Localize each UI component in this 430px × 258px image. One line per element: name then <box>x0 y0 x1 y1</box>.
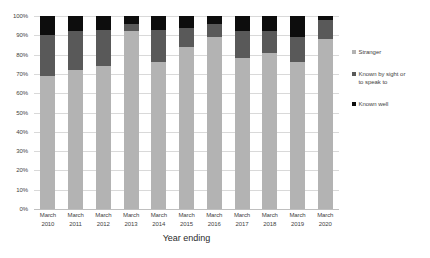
bar-march-2019[interactable] <box>290 16 305 209</box>
legend-item-stranger[interactable]: Stranger <box>352 48 430 56</box>
bar-segment-known-by-sight-or-to-speak-to[interactable] <box>207 24 222 38</box>
bar-segment-known-well[interactable] <box>207 16 222 24</box>
bars-layer <box>34 16 339 209</box>
bar-segment-known-well[interactable] <box>179 16 194 28</box>
bar-segment-stranger[interactable] <box>124 31 139 209</box>
x-tick-label: March2019 <box>284 211 312 233</box>
y-tick-label: 60% <box>16 90 28 96</box>
x-tick-label: March2018 <box>256 211 284 233</box>
bar-segment-known-well[interactable] <box>290 16 305 37</box>
x-axis: March2010March2011March2012March2013Marc… <box>34 211 339 233</box>
bar-slot <box>284 16 312 209</box>
bar-segment-stranger[interactable] <box>290 62 305 209</box>
y-tick-label: 20% <box>16 167 28 173</box>
x-tick-line: 2020 <box>311 220 339 229</box>
legend-label: Known by sight orto speak to <box>359 70 406 86</box>
x-tick-line: March <box>145 211 173 220</box>
bar-segment-known-well[interactable] <box>68 16 83 31</box>
bar-segment-known-well[interactable] <box>40 16 55 35</box>
legend-label-line: Stranger <box>359 48 382 56</box>
bar-segment-known-well[interactable] <box>96 16 111 30</box>
legend-item-known-by-sight-or-to-speak-to[interactable]: Known by sight orto speak to <box>352 70 430 86</box>
x-tick-label: March2020 <box>311 211 339 233</box>
y-tick-label: 30% <box>16 148 28 154</box>
bar-march-2016[interactable] <box>207 16 222 209</box>
bar-segment-stranger[interactable] <box>96 66 111 209</box>
x-tick-line: 2011 <box>62 220 90 229</box>
x-tick-line: 2018 <box>256 220 284 229</box>
bar-segment-known-by-sight-or-to-speak-to[interactable] <box>262 31 277 52</box>
bar-slot <box>89 16 117 209</box>
bar-segment-known-by-sight-or-to-speak-to[interactable] <box>96 30 111 67</box>
bar-march-2018[interactable] <box>262 16 277 209</box>
x-tick-label: March2011 <box>62 211 90 233</box>
bar-segment-known-by-sight-or-to-speak-to[interactable] <box>179 28 194 47</box>
y-tick-label: 10% <box>16 187 28 193</box>
y-tick-label: 90% <box>16 32 28 38</box>
x-axis-title: Year ending <box>34 233 339 243</box>
bar-segment-known-by-sight-or-to-speak-to[interactable] <box>151 30 166 63</box>
legend-swatch-icon <box>352 50 356 54</box>
bar-segment-known-by-sight-or-to-speak-to[interactable] <box>318 20 333 39</box>
bar-segment-known-by-sight-or-to-speak-to[interactable] <box>235 31 250 58</box>
bar-segment-known-by-sight-or-to-speak-to[interactable] <box>124 24 139 32</box>
bar-segment-stranger[interactable] <box>207 37 222 209</box>
bar-slot <box>200 16 228 209</box>
x-tick-line: March <box>200 211 228 220</box>
bar-march-2017[interactable] <box>235 16 250 209</box>
x-tick-line: 2019 <box>284 220 312 229</box>
bar-segment-known-well[interactable] <box>151 16 166 30</box>
bar-slot <box>145 16 173 209</box>
legend-label-line: Known by sight or <box>359 70 406 78</box>
y-tick-label: 50% <box>16 110 28 116</box>
y-tick-label: 70% <box>16 71 28 77</box>
y-tick-label: 80% <box>16 52 28 58</box>
bar-slot <box>173 16 201 209</box>
bar-segment-stranger[interactable] <box>318 39 333 209</box>
x-tick-line: 2010 <box>34 220 62 229</box>
legend-label: Stranger <box>359 48 382 56</box>
x-tick-line: March <box>256 211 284 220</box>
bar-segment-stranger[interactable] <box>179 47 194 209</box>
bar-segment-stranger[interactable] <box>68 70 83 209</box>
bar-march-2013[interactable] <box>124 16 139 209</box>
legend-label-line: Known well <box>359 100 389 108</box>
x-tick-line: 2017 <box>228 220 256 229</box>
bar-segment-known-well[interactable] <box>235 16 250 31</box>
x-tick-line: March <box>89 211 117 220</box>
bar-march-2014[interactable] <box>151 16 166 209</box>
bar-segment-known-by-sight-or-to-speak-to[interactable] <box>68 31 83 70</box>
x-tick-label: March2016 <box>200 211 228 233</box>
bar-march-2020[interactable] <box>318 16 333 209</box>
bar-segment-stranger[interactable] <box>262 53 277 209</box>
bar-march-2015[interactable] <box>179 16 194 209</box>
bar-segment-stranger[interactable] <box>40 76 55 209</box>
bar-march-2010[interactable] <box>40 16 55 209</box>
bar-segment-stranger[interactable] <box>235 58 250 209</box>
x-tick-line: March <box>62 211 90 220</box>
bar-march-2011[interactable] <box>68 16 83 209</box>
x-tick-label: March2017 <box>228 211 256 233</box>
bar-slot <box>311 16 339 209</box>
x-tick-label: March2013 <box>117 211 145 233</box>
x-tick-line: March <box>228 211 256 220</box>
x-tick-line: 2013 <box>117 220 145 229</box>
legend-label-line: to speak to <box>359 78 406 86</box>
plot-area <box>34 16 339 209</box>
bar-segment-known-well[interactable] <box>124 16 139 24</box>
bar-segment-known-by-sight-or-to-speak-to[interactable] <box>290 37 305 62</box>
bar-slot <box>34 16 62 209</box>
bar-slot <box>62 16 90 209</box>
y-tick-label: 40% <box>16 129 28 135</box>
bar-segment-known-well[interactable] <box>262 16 277 31</box>
bar-segment-stranger[interactable] <box>151 62 166 209</box>
x-tick-line: 2016 <box>200 220 228 229</box>
legend-swatch-icon <box>352 72 356 76</box>
legend-item-known-well[interactable]: Known well <box>352 100 430 108</box>
bar-segment-known-by-sight-or-to-speak-to[interactable] <box>40 35 55 76</box>
legend-label: Known well <box>359 100 389 108</box>
x-tick-line: 2012 <box>89 220 117 229</box>
x-tick-line: March <box>284 211 312 220</box>
x-tick-line: March <box>117 211 145 220</box>
bar-march-2012[interactable] <box>96 16 111 209</box>
